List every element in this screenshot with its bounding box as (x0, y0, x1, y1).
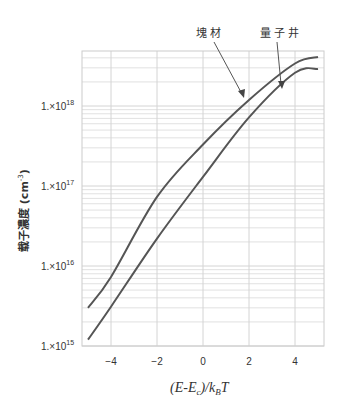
y-tick-labels: 1.×1018 1.×1017 1.×1016 1.×1015 (41, 99, 74, 352)
x-tick-neg2: −2 (151, 356, 163, 367)
y-axis-label: 载子濃度 (cm-3) (17, 169, 31, 252)
annotation-bulk: 塊材 (196, 26, 224, 40)
x-axis-label: (E-Ec)/kBT (170, 380, 230, 397)
x-tick-labels: −4 −2 0 2 4 (105, 356, 298, 367)
y-tick-16: 1.×1016 (41, 259, 74, 272)
x-tick-4: 4 (292, 356, 298, 367)
y-tick-17: 1.×1017 (41, 179, 74, 192)
x-tick-neg4: −4 (105, 356, 117, 367)
x-tick-0: 0 (200, 356, 206, 367)
x-tick-2: 2 (246, 356, 252, 367)
y-tick-18: 1.×1018 (41, 99, 74, 112)
arrow-quantum-well (277, 42, 281, 84)
arrow-head-bulk-icon (238, 89, 245, 98)
grid-lines (82, 51, 324, 346)
carrier-concentration-chart: 塊材 量子井 1.×1018 1.×1017 1.×1016 1.×1015 −… (0, 0, 344, 415)
y-tick-15: 1.×1015 (41, 339, 74, 352)
annotation-quantum-well: 量子井 (260, 26, 302, 40)
